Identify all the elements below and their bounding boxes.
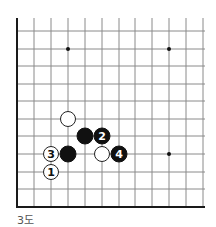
go-board: 2341: [0, 0, 216, 227]
black-stone: [77, 128, 93, 144]
grid-lines: [17, 18, 205, 207]
black-stone-4: 4: [111, 146, 127, 162]
white-stone: [61, 112, 76, 127]
board-edges: [16, 18, 205, 208]
white-stone-1: 1: [44, 165, 59, 180]
white-stone-3: 3: [44, 147, 59, 162]
star-point: [167, 47, 171, 51]
move-number: 3: [47, 148, 55, 161]
move-number: 1: [47, 166, 55, 179]
star-point: [167, 152, 171, 156]
diagram-caption: 3도: [17, 211, 34, 227]
black-stone: [60, 146, 76, 162]
white-stone: [95, 147, 110, 162]
star-point: [66, 47, 70, 51]
black-stone-2: 2: [94, 128, 110, 144]
move-number: 2: [98, 130, 106, 143]
move-number: 4: [115, 148, 123, 161]
